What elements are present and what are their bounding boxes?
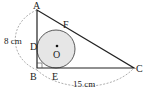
label-d: D xyxy=(30,41,37,52)
measure-bc: 15 cm xyxy=(73,79,95,89)
label-c: C xyxy=(136,63,143,74)
measure-ab: 8 cm xyxy=(4,36,22,46)
label-e: E xyxy=(52,71,58,82)
label-a: A xyxy=(33,0,41,11)
geometry-figure: A B C D E F O 8 cm 15 cm xyxy=(0,0,145,92)
center-point xyxy=(56,45,59,48)
label-b: B xyxy=(30,71,37,82)
label-o: O xyxy=(53,49,60,60)
right-angle-mark xyxy=(37,63,42,68)
label-f: F xyxy=(63,19,69,30)
